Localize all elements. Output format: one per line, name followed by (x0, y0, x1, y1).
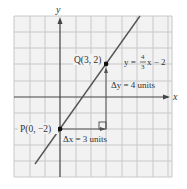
equation-lhs: y = (124, 57, 136, 67)
equation-denominator: 3 (141, 63, 145, 71)
delta-x-label: Δx = 3 units (63, 134, 108, 144)
point-p-label: P(0, −2) (20, 124, 51, 135)
equation-rhs: x − 2 (147, 57, 166, 67)
coordinate-plane: x y P(0, −2) Q(3, 2) y = 4 3 x − 2 Δy = … (0, 0, 187, 189)
point-q-label: Q(3, 2) (74, 55, 101, 66)
x-axis-label: x (172, 91, 178, 102)
equation-numerator: 4 (141, 53, 145, 61)
delta-y-label: Δy = 4 units (111, 80, 156, 90)
y-axis-label: y (55, 4, 61, 15)
point-q (104, 62, 109, 67)
point-p (58, 127, 63, 132)
